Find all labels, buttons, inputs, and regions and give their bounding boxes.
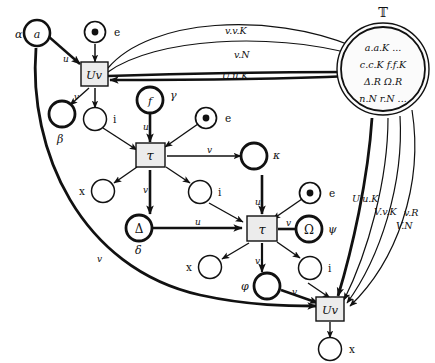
- arc-label-kappa-u: u: [255, 197, 261, 207]
- label-x3: x: [349, 343, 355, 355]
- label-x1: x: [79, 185, 85, 197]
- arc-label-tauupper-out-v: v: [207, 145, 212, 155]
- arc-label-to-T-1: v.v.K: [225, 25, 248, 36]
- arc-e2-to-tauupper: [165, 124, 198, 147]
- arc-uvtop-to-T-vN: [108, 41, 352, 72]
- label-e1: e: [114, 26, 120, 38]
- place-phi[interactable]: [254, 273, 280, 299]
- label-i1: i: [113, 113, 117, 125]
- arc-i3-to-uvbottom: [308, 283, 330, 298]
- token-dot-e3: [307, 190, 314, 197]
- label-alpha: α: [15, 28, 23, 41]
- arc-tauupper-to-x1: [114, 167, 137, 183]
- label-T-symbol: 𝕋: [378, 5, 388, 20]
- arc-label-uvtop-v: v: [74, 92, 79, 102]
- arc-label-taulower-out-v: v: [286, 218, 291, 228]
- arc-alpha-long-curve-v: [35, 48, 316, 306]
- place-i3[interactable]: [299, 257, 322, 280]
- place-beta[interactable]: [49, 101, 75, 127]
- arc-label-alpha-u: u: [63, 54, 69, 64]
- label-psi: ψ: [328, 223, 337, 236]
- label-phi: φ: [241, 280, 249, 293]
- place-psi-inner: Ω: [304, 223, 314, 237]
- label-i2: i: [218, 186, 222, 198]
- T-line-2: c.c.K f.f.K: [360, 59, 407, 70]
- arc-i2-to-taulower: [209, 203, 243, 222]
- arc-label-from-T-2: V.v.K: [374, 206, 397, 217]
- arc-label-from-T-3: v.R: [404, 207, 418, 218]
- arc-tauupper-to-i2: [166, 167, 190, 183]
- arc-label-delta-u: u: [195, 217, 201, 227]
- place-alpha-inner: a: [34, 28, 41, 41]
- T-line-4: n.N r.N ...: [359, 93, 406, 104]
- token-dot-e1: [92, 29, 99, 36]
- place-x3[interactable]: [319, 338, 342, 361]
- label-beta: β: [56, 133, 63, 146]
- arc-label-to-T-3: U.u.K: [222, 70, 249, 81]
- arc-uvtop-to-beta: [70, 88, 89, 105]
- transition-uv-top-label: Uv: [86, 68, 103, 82]
- arc-phi-to-uvbottom: [281, 290, 318, 303]
- place-i2[interactable]: [189, 181, 212, 204]
- T-line-1: a.a.K ...: [365, 42, 402, 53]
- label-e3: e: [329, 187, 335, 199]
- T-line-3: Δ.R Ω.R: [363, 76, 402, 87]
- arc-taulower-to-i3: [277, 242, 300, 258]
- arc-label-gamma-u: u: [143, 122, 149, 132]
- place-x2[interactable]: [199, 256, 222, 279]
- diagram-canvas: Uv τ τ Uv a f Δ Ω α β γ κ δ ψ φ e e e i …: [0, 0, 435, 363]
- token-dot-e2: [203, 115, 210, 122]
- arc-label-from-T-1: U.u.K: [352, 193, 379, 204]
- transition-uv-bottom-label: Uv: [322, 303, 339, 317]
- place-kappa[interactable]: [241, 143, 267, 169]
- arc-label-tauupper-down-v: v: [143, 185, 148, 195]
- place-delta-inner: Δ: [135, 222, 144, 236]
- arc-label-long-curve-v: v: [97, 254, 102, 264]
- label-gamma: γ: [170, 89, 177, 102]
- transition-tau-lower-label: τ: [258, 222, 266, 237]
- transition-tau-upper-label: τ: [146, 148, 154, 163]
- arc-label-taulower-down-v: v: [255, 256, 260, 266]
- arc-taulower-to-x2: [222, 243, 249, 259]
- arc-label-to-T-2: v.N: [234, 49, 250, 60]
- place-x1[interactable]: [92, 180, 115, 203]
- label-kappa: κ: [272, 149, 281, 162]
- arc-i1-to-tauupper: [103, 128, 137, 150]
- place-i1[interactable]: [84, 108, 107, 131]
- label-e2: e: [225, 112, 231, 124]
- label-delta: δ: [135, 244, 142, 257]
- label-x2: x: [186, 261, 192, 273]
- petri-net-diagram: Uv τ τ Uv a f Δ Ω α β γ κ δ ψ φ e e e i …: [0, 0, 435, 363]
- arc-label-from-T-4: V.N: [396, 220, 413, 231]
- arc-label-phi-v: v: [292, 287, 297, 297]
- label-i3: i: [328, 262, 332, 274]
